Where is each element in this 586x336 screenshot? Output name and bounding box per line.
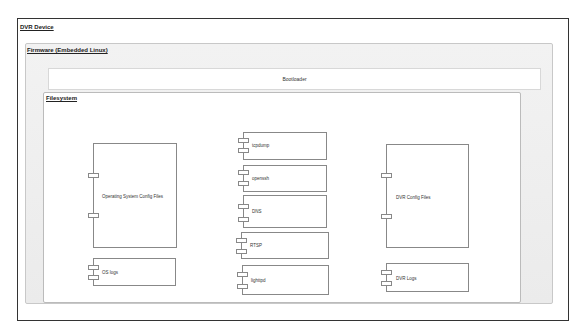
component-port-icon — [381, 270, 392, 275]
component-port-icon — [381, 173, 392, 178]
component-port-icon — [88, 265, 99, 270]
firmware-label: Firmware (Embedded Linux) — [27, 47, 108, 53]
component-port-icon — [381, 281, 392, 286]
component-port-icon — [238, 148, 249, 153]
dns-label: DNS — [252, 209, 262, 214]
component-port-icon — [238, 170, 249, 175]
bootloader-component: Bootloader — [48, 68, 541, 90]
component-port-icon — [236, 238, 247, 243]
filesystem-label: Filesystem — [46, 95, 77, 101]
dvr-logs-component: DVR Logs — [386, 263, 469, 292]
openssh-label: openssh — [252, 176, 269, 181]
os-config-files-component: Operating System Config Files — [93, 143, 177, 248]
component-port-icon — [238, 181, 249, 186]
lighttpd-component: lighttpd — [242, 265, 329, 295]
component-port-icon — [236, 249, 247, 254]
os-config-files-label: Operating System Config Files — [102, 194, 163, 199]
rtsp-component: RTSP — [241, 232, 329, 259]
component-port-icon — [237, 284, 248, 289]
component-port-icon — [88, 275, 99, 280]
lighttpd-label: lighttpd — [251, 278, 266, 283]
dvr-config-files-label: DVR Config Files — [396, 195, 431, 200]
dvr-device-label: DVR Device — [20, 24, 54, 30]
dvr-logs-label: DVR Logs — [396, 276, 417, 281]
os-logs-component: OS logs — [93, 258, 176, 286]
component-port-icon — [88, 213, 99, 218]
component-port-icon — [88, 173, 99, 178]
dns-component: DNS — [243, 195, 327, 228]
component-port-icon — [238, 138, 249, 143]
component-port-icon — [237, 272, 248, 277]
os-logs-label: OS logs — [102, 270, 118, 275]
tcpdump-label: tcpdump — [252, 143, 269, 148]
openssh-component: openssh — [243, 165, 327, 192]
component-port-icon — [238, 204, 249, 209]
dvr-config-files-component: DVR Config Files — [386, 144, 469, 248]
bootloader-label: Bootloader — [49, 76, 540, 82]
rtsp-label: RTSP — [250, 243, 262, 248]
tcpdump-component: tcpdump — [243, 132, 327, 160]
component-port-icon — [381, 214, 392, 219]
component-port-icon — [238, 217, 249, 222]
